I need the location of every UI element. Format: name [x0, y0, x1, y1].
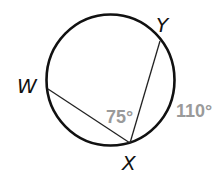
point-label-x: X	[121, 151, 137, 174]
circle-diagram: W Y X 75° 110°	[0, 0, 222, 174]
inscribed-angle-measure: 75°	[106, 107, 133, 127]
point-label-y: Y	[156, 13, 170, 37]
point-label-w: W	[17, 74, 38, 98]
arc-measure: 110°	[176, 101, 212, 121]
